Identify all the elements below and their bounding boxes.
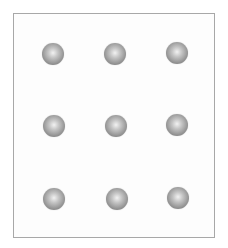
sphere-r1-c2 xyxy=(104,43,126,65)
sphere-r1-c1 xyxy=(42,43,64,65)
sphere-r2-c3 xyxy=(166,114,188,136)
sphere-r2-c2 xyxy=(105,115,127,137)
sphere-r3-c2 xyxy=(106,188,128,210)
sphere-r3-c1 xyxy=(43,188,65,210)
sphere-r2-c1 xyxy=(43,115,65,137)
sphere-r1-c3 xyxy=(166,42,188,64)
sphere-r3-c3 xyxy=(167,187,189,209)
